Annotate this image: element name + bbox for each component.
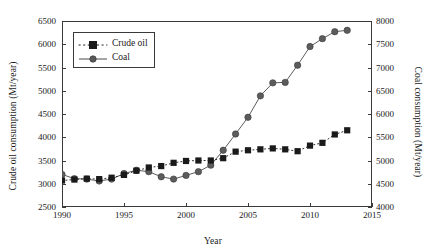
data-point-marker [158,174,164,180]
data-point-marker [109,175,115,181]
data-point-marker [195,157,201,163]
data-point-marker [96,176,102,182]
series-crude-oil [62,127,350,183]
data-point-marker [133,168,139,174]
data-point-marker [195,168,201,174]
data-point-marker [232,131,238,137]
data-point-marker [332,28,338,34]
data-point-marker [62,171,65,177]
data-point-marker [319,140,325,146]
x-axis-tick-label: 2005 [239,210,257,220]
data-point-marker [307,43,313,49]
data-point-marker [121,172,127,178]
legend-item-coal: Coal [78,50,148,64]
data-point-marker [294,62,300,68]
x-axis-tick-label: 2000 [177,210,195,220]
y-axis-left-tick-label: 4000 [38,132,56,142]
data-point-marker [245,114,251,120]
data-point-marker [171,160,177,166]
data-point-marker [245,147,251,153]
x-axis-tick-label: 1990 [53,210,71,220]
legend-label-crude-oil: Crude oil [112,38,148,48]
y-axis-right-tick-label: 7000 [376,63,394,73]
y-axis-left-tick-label: 3000 [38,179,56,189]
y-axis-left-tick-label: 6000 [38,39,56,49]
y-axis-left-tick-label: 4500 [38,109,56,119]
y-axis-left-tick-label: 5500 [38,63,56,73]
y-axis-right-tick-label: 4500 [376,179,394,189]
data-point-marker [282,146,288,152]
x-axis-tick [372,203,373,207]
data-point-marker [183,158,189,164]
y-axis-right-tick-label: 6000 [376,109,394,119]
data-point-marker [170,176,176,182]
data-point-marker [319,35,325,41]
data-point-marker [233,149,239,155]
x-axis-tick-label: 2015 [363,210,381,220]
y-axis-left-tick-label: 3500 [38,156,56,166]
y-axis-right-tick-label: 5500 [376,132,394,142]
chart-legend: Crude oil Coal [73,32,155,68]
data-point-marker [270,145,276,151]
data-point-marker [220,147,226,153]
y-axis-right-tick [368,207,372,208]
y-axis-right-title: Coal consumption (Mt/year) [413,67,423,178]
data-point-marker [84,176,90,182]
legend-swatch-crude-oil [78,37,108,49]
y-axis-left-title: Crude oil consumption (Mt/year) [8,62,18,191]
data-point-marker [344,127,350,133]
y-axis-left-tick-label: 5000 [38,86,56,96]
data-point-marker [62,177,65,183]
data-point-marker [257,93,263,99]
y-axis-left-tick [62,207,66,208]
x-axis-tick-label: 1995 [115,210,133,220]
legend-label-coal: Coal [112,52,130,62]
x-axis-title: Year [204,236,222,246]
data-point-marker [183,172,189,178]
series-line [62,130,347,180]
legend-item-crude-oil: Crude oil [78,36,148,50]
data-point-marker [208,157,214,163]
data-point-marker [158,163,164,169]
data-point-marker [295,148,301,154]
figure-container: Crude oil consumption (Mt/year) Coal con… [0,0,426,252]
data-point-marker [146,164,152,170]
y-axis-right-tick-label: 6500 [376,86,394,96]
data-point-marker [332,131,338,137]
data-point-marker [344,27,350,33]
data-point-marker [220,155,226,161]
y-axis-right-tick-label: 8000 [376,16,394,26]
data-point-marker [71,176,77,182]
data-point-marker [307,143,313,149]
y-axis-right-tick-label: 7500 [376,39,394,49]
y-axis-left-tick-label: 6500 [38,16,56,26]
y-axis-right-tick-label: 5000 [376,156,394,166]
data-point-marker [257,146,263,152]
x-axis-tick-label: 2010 [301,210,319,220]
data-point-marker [282,79,288,85]
legend-swatch-coal [78,51,108,63]
data-point-marker [270,80,276,86]
